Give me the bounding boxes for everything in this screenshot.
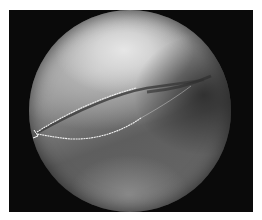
image-frame	[9, 10, 253, 212]
arthroscopic-view	[29, 10, 231, 212]
caption-strip	[10, 213, 252, 220]
suture-lines	[29, 10, 231, 212]
